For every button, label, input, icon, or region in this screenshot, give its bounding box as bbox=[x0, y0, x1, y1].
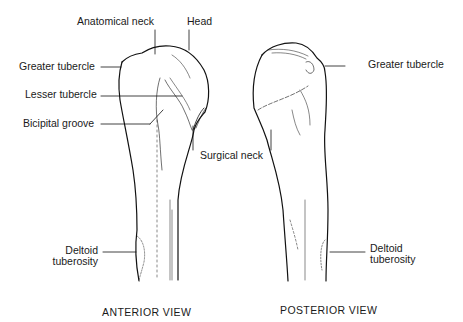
label-head: Head bbox=[187, 16, 212, 27]
caption-anterior-view: ANTERIOR VIEW bbox=[102, 306, 191, 318]
posterior-humerus-drawing bbox=[253, 43, 328, 281]
label-surgical-neck: Surgical neck bbox=[200, 150, 263, 161]
label-deltoid-tuberosity-posterior-line2: tuberosity bbox=[370, 254, 416, 265]
leader-lines bbox=[101, 30, 365, 252]
label-bicipital-groove: Bicipital groove bbox=[23, 118, 94, 129]
humerus-illustration bbox=[0, 0, 463, 322]
label-anatomical-neck: Anatomical neck bbox=[77, 16, 154, 27]
label-lesser-tubercle: Lesser tubercle bbox=[25, 89, 97, 100]
anterior-humerus-drawing bbox=[119, 46, 209, 281]
label-greater-tubercle-anterior: Greater tubercle bbox=[19, 61, 95, 72]
label-greater-tubercle-posterior: Greater tubercle bbox=[368, 59, 444, 70]
caption-posterior-view: POSTERIOR VIEW bbox=[280, 304, 377, 316]
label-deltoid-tuberosity-anterior-line2: tuberosity bbox=[40, 256, 98, 267]
